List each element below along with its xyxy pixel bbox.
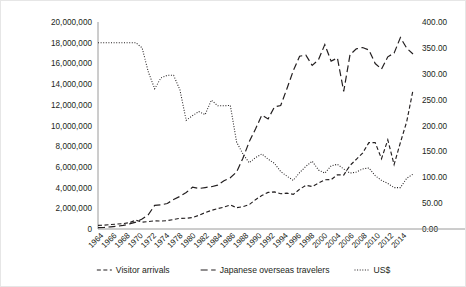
legend: Visitor arrivalsJapanese overseas travel… xyxy=(97,265,391,275)
y-axis-right-tick-label: 50.00 xyxy=(422,199,443,208)
y-axis-right-ticks: 0.0050.00100.00150.00200.00250.00300.003… xyxy=(422,18,447,234)
legend-label: Japanese overseas travelers xyxy=(220,265,330,275)
x-axis-ticks: 1964196619681970197219741978198019821984… xyxy=(86,231,408,250)
y-axis-left-tick-label: 20,000,000 xyxy=(51,18,92,27)
y-axis-left-tick-label: 8,000,000 xyxy=(56,142,93,151)
y-axis-right-tick-label: 250.00 xyxy=(422,96,447,105)
y-axis-right-tick-label: 350.00 xyxy=(422,44,447,53)
x-axis-tick-label: 2014 xyxy=(389,231,408,250)
y-axis-left-tick-label: 4,000,000 xyxy=(56,184,93,193)
series-line xyxy=(98,43,413,188)
y-axis-right-tick-label: 150.00 xyxy=(422,147,447,156)
axis-lines xyxy=(98,22,465,229)
y-axis-left-tick-label: 2,000,000 xyxy=(56,204,93,213)
y-axis-left-tick-label: 16,000,000 xyxy=(51,59,92,68)
y-axis-left-tick-label: 10,000,000 xyxy=(51,122,92,131)
line-chart: 02,000,0004,000,0006,000,0008,000,00010,… xyxy=(1,1,466,287)
y-axis-right-tick-label: 400.00 xyxy=(422,18,447,27)
legend-label: US$ xyxy=(374,265,391,275)
y-axis-left-tick-label: 12,000,000 xyxy=(51,101,92,110)
y-axis-right-tick-label: 100.00 xyxy=(422,173,447,182)
series-layer xyxy=(98,38,413,228)
y-axis-left-ticks: 02,000,0004,000,0006,000,0008,000,00010,… xyxy=(51,18,92,234)
series-line xyxy=(98,90,413,225)
y-axis-left-tick-label: 14,000,000 xyxy=(51,80,92,89)
y-axis-left-tick-label: 0 xyxy=(87,225,92,234)
y-axis-right-tick-label: 200.00 xyxy=(422,122,447,131)
y-axis-right-tick-label: 300.00 xyxy=(422,70,447,79)
chart-figure: 02,000,0004,000,0006,000,0008,000,00010,… xyxy=(0,0,466,287)
y-axis-left-tick-label: 6,000,000 xyxy=(56,163,93,172)
y-axis-left-tick-label: 18,000,000 xyxy=(51,39,92,48)
legend-label: Visitor arrivals xyxy=(116,265,170,275)
